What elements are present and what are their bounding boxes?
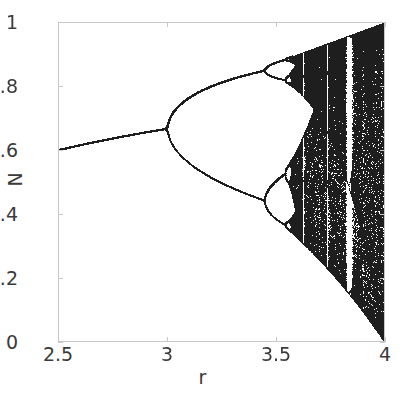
x-tick-4 [385,22,386,27]
x-tick-4 [385,337,386,342]
y-tick-0-8 [380,86,385,87]
x-tick-label-3: 3 [161,345,173,364]
x-tick-label-3-5: 3.5 [261,345,291,364]
y-tick-0-4 [380,214,385,215]
y-tick-1 [58,22,63,23]
x-axis-title: r [0,368,405,387]
plot-area [58,22,385,342]
y-tick-0-2 [380,278,385,279]
y-tick-label-0-8: 0.8 [0,77,18,96]
y-tick-0 [58,342,63,343]
x-tick-label-4: 4 [379,345,391,364]
y-tick-0 [380,342,385,343]
y-tick-0-2 [58,278,63,279]
y-tick-0-4 [58,214,63,215]
x-tick-3 [167,337,168,342]
x-tick-3-5 [276,22,277,27]
y-axis-title: N [6,172,25,186]
y-tick-1 [380,22,385,23]
y-tick-label-0-4: 0.4 [0,205,18,224]
y-tick-label-0: 0 [6,333,18,352]
bifurcation-figure: 2.533.5410.80.60.40.20 N r [0,0,405,399]
y-tick-label-1: 1 [6,13,18,32]
y-tick-label-0-2: 0.2 [0,269,18,288]
y-tick-label-0-6: 0.6 [0,141,18,160]
x-tick-3-5 [276,337,277,342]
bifurcation-scatter-canvas [59,23,384,341]
y-tick-0-8 [58,86,63,87]
y-tick-0-6 [380,150,385,151]
x-tick-3 [167,22,168,27]
y-tick-0-6 [58,150,63,151]
x-tick-label-2-5: 2.5 [43,345,73,364]
